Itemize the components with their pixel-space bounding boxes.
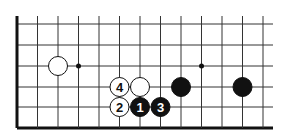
move-number-label: 3 [157,100,164,115]
star-point-icon [76,64,81,69]
white-stone [49,57,68,76]
black-stone [172,78,191,97]
move-number-label: 4 [116,80,124,95]
black-stone [233,78,252,97]
white-stone-4: 4 [110,78,129,97]
move-number-label: 2 [116,100,123,115]
star-point-icon [199,64,204,69]
white-stone-2: 2 [110,98,129,117]
black-stone-3: 3 [151,98,170,117]
white-stone [131,78,150,97]
go-board-diagram: 4213 [0,0,293,137]
black-stone-1: 1 [131,98,150,117]
move-number-label: 1 [136,100,143,115]
